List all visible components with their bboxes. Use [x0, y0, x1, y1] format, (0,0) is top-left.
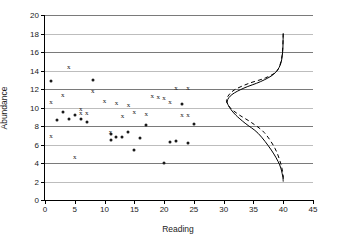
y-axis-tick — [41, 71, 45, 72]
data-point-dot — [139, 137, 142, 140]
data-point-dot — [55, 118, 58, 121]
data-point-dot — [121, 136, 124, 139]
y-axis-title: Abundance — [0, 86, 9, 129]
x-axis-tick-label: 45 — [309, 205, 318, 214]
y-axis-tick — [41, 52, 45, 53]
y-axis-tick-label: 18 — [30, 29, 39, 38]
y-axis-tick-label: 6 — [35, 140, 39, 149]
y-axis-tick-label: 10 — [30, 103, 39, 112]
y-axis-tick-label: 16 — [30, 48, 39, 57]
x-axis-tick — [224, 200, 225, 204]
data-point-dot — [109, 132, 112, 135]
y-axis-tick — [41, 145, 45, 146]
data-point-dot — [192, 122, 195, 125]
data-point-dot — [163, 161, 166, 164]
x-axis-tick — [45, 200, 46, 204]
plot-area: xxxxxxxxxxxxxxxxxxxxxxxx 024681012141618… — [44, 15, 313, 201]
y-axis-tick-label: 14 — [30, 66, 39, 75]
data-point-cross: x — [79, 109, 83, 116]
data-point-cross: x — [73, 153, 77, 160]
x-axis-tick — [283, 200, 284, 204]
y-axis-tick-label: 12 — [30, 85, 39, 94]
data-point-cross: x — [61, 92, 65, 99]
x-axis-tick — [253, 200, 254, 204]
data-point-dot — [186, 142, 189, 145]
data-point-cross: x — [180, 112, 184, 119]
data-point-cross: x — [115, 99, 119, 106]
y-axis-tick — [41, 182, 45, 183]
data-point-cross: x — [91, 88, 95, 95]
data-point-cross: x — [103, 98, 107, 105]
y-axis-tick — [41, 126, 45, 127]
y-axis-tick-label: 0 — [35, 196, 39, 205]
data-point-dot — [49, 79, 52, 82]
x-axis-tick — [105, 200, 106, 204]
y-axis-tick — [41, 108, 45, 109]
data-point-dot — [91, 79, 94, 82]
data-point-dot — [79, 118, 82, 121]
data-point-cross: x — [127, 101, 131, 108]
x-axis-tick-label: 20 — [160, 205, 169, 214]
y-axis-tick-label: 20 — [30, 11, 39, 20]
data-point-cross: x — [174, 84, 178, 91]
x-axis-tick — [313, 200, 314, 204]
data-point-dot — [61, 111, 64, 114]
data-point-cross: x — [67, 63, 71, 70]
data-point-dot — [109, 138, 112, 141]
data-point-dot — [175, 139, 178, 142]
data-point-dot — [169, 140, 172, 143]
data-point-dot — [115, 135, 118, 138]
x-axis-tick-label: 10 — [100, 205, 109, 214]
data-point-cross: x — [49, 133, 53, 140]
data-point-cross: x — [121, 113, 125, 120]
data-point-dot — [85, 120, 88, 123]
data-point-cross: x — [133, 108, 137, 115]
data-point-cross: x — [150, 93, 154, 100]
data-point-cross: x — [186, 112, 190, 119]
y-axis-tick — [41, 34, 45, 35]
data-point-dot — [145, 124, 148, 127]
x-axis-title: Reading — [162, 224, 194, 234]
data-point-dot — [180, 103, 183, 106]
x-axis-tick-label: 40 — [279, 205, 288, 214]
data-point-dot — [73, 113, 76, 116]
chart-figure: xxxxxxxxxxxxxxxxxxxxxxxx 024681012141618… — [0, 0, 339, 242]
x-axis-tick — [164, 200, 165, 204]
x-axis-tick-label: 35 — [249, 205, 258, 214]
data-point-dot — [67, 118, 70, 121]
data-point-cross: x — [144, 110, 148, 117]
data-point-cross: x — [168, 98, 172, 105]
y-axis-tick — [41, 163, 45, 164]
x-axis-tick — [194, 200, 195, 204]
x-axis-tick-label: 0 — [43, 205, 47, 214]
y-axis-tick-label: 2 — [35, 177, 39, 186]
x-axis-tick-label: 30 — [219, 205, 228, 214]
data-points-layer: xxxxxxxxxxxxxxxxxxxxxxxx — [45, 15, 313, 200]
data-point-dot — [127, 130, 130, 133]
data-point-cross: x — [49, 98, 53, 105]
x-axis-tick-label: 25 — [189, 205, 198, 214]
y-axis-tick-label: 8 — [35, 122, 39, 131]
data-point-cross: x — [156, 93, 160, 100]
x-axis-tick-label: 15 — [130, 205, 139, 214]
x-axis-tick-label: 5 — [73, 205, 77, 214]
data-point-cross: x — [186, 84, 190, 91]
data-point-cross: x — [162, 94, 166, 101]
data-point-dot — [133, 148, 136, 151]
y-axis-tick — [41, 89, 45, 90]
y-axis-tick — [41, 15, 45, 16]
y-axis-tick-label: 4 — [35, 159, 39, 168]
x-axis-tick — [134, 200, 135, 204]
data-point-cross: x — [85, 110, 89, 117]
x-axis-tick — [75, 200, 76, 204]
